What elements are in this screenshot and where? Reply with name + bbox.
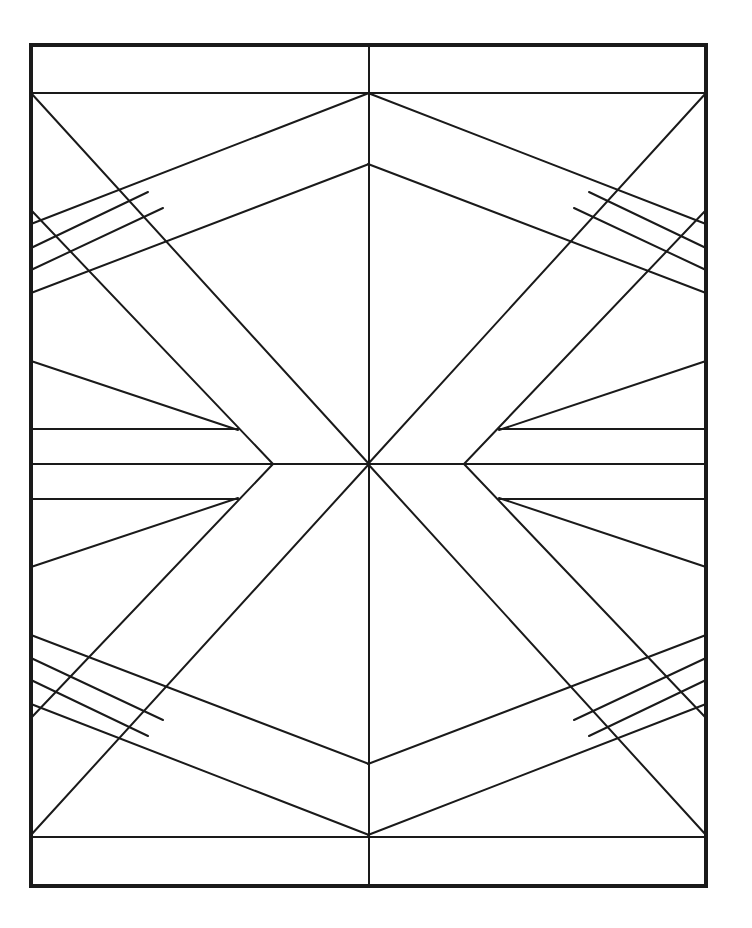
pattern-line: [464, 210, 706, 464]
pattern-line: [31, 93, 369, 464]
pattern-line: [368, 93, 706, 224]
pattern-line: [31, 635, 369, 764]
pattern-line: [31, 704, 369, 835]
pattern-line: [464, 464, 706, 718]
pattern-line: [368, 704, 706, 835]
pattern-line: [31, 464, 369, 835]
pattern-line: [31, 164, 369, 293]
pattern-line: [31, 93, 369, 224]
pattern-line: [31, 464, 273, 718]
line-art-diagram: [0, 0, 752, 928]
pattern-lines: [31, 45, 706, 886]
pattern-line: [368, 93, 706, 464]
pattern-line: [368, 164, 706, 293]
pattern-line: [368, 464, 706, 835]
pattern-line: [31, 210, 273, 464]
pattern-line: [368, 635, 706, 764]
